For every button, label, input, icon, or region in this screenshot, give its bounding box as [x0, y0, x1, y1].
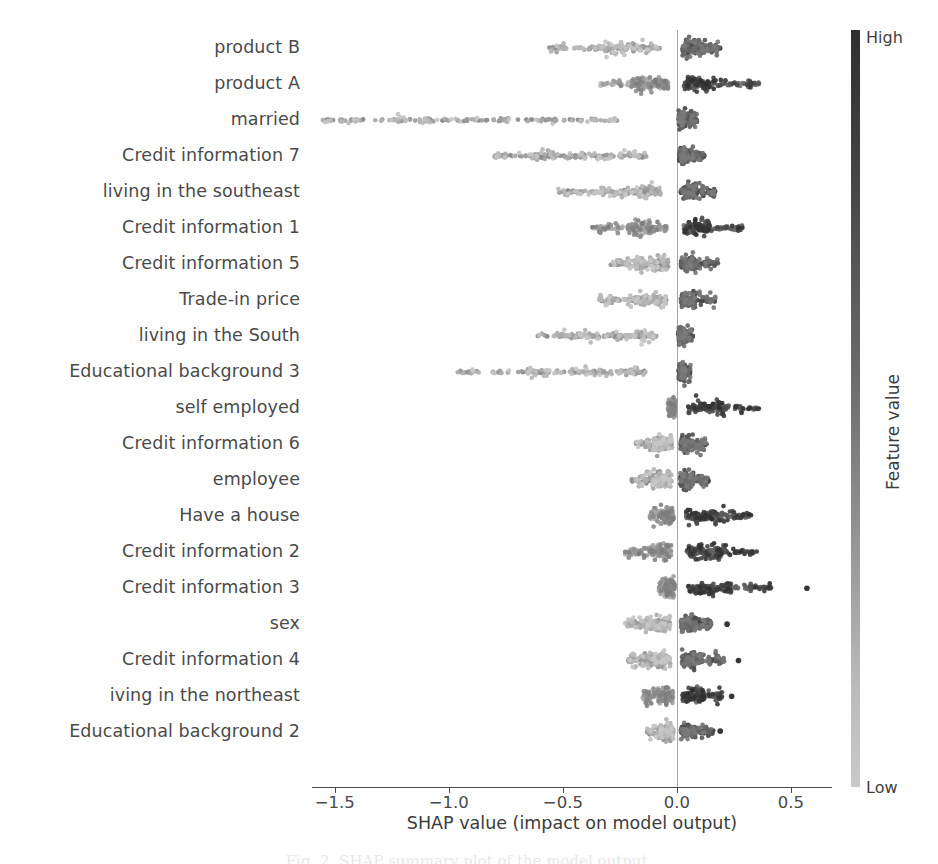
beeswarm-row	[312, 570, 832, 606]
x-axis: −1.5−1.0−0.50.00.5	[312, 787, 832, 789]
y-axis-label: Educational background 3	[0, 363, 300, 381]
y-axis-label: Credit information 6	[0, 435, 300, 453]
beeswarm-points	[312, 354, 832, 390]
y-axis-label: Credit information 7	[0, 147, 300, 165]
beeswarm-points	[312, 102, 832, 138]
beeswarm-points	[312, 30, 832, 66]
beeswarm-row	[312, 66, 832, 102]
y-axis-label: married	[0, 111, 300, 129]
beeswarm-points	[312, 534, 832, 570]
x-axis-tick-label: −1.5	[315, 795, 355, 812]
y-axis-label: employee	[0, 471, 300, 489]
beeswarm-points	[312, 66, 832, 102]
beeswarm-points	[312, 714, 832, 750]
y-axis-labels: product Bproduct AmarriedCredit informat…	[0, 0, 300, 790]
beeswarm-points	[312, 282, 832, 318]
plot-area	[312, 30, 832, 787]
beeswarm-points	[312, 642, 832, 678]
beeswarm-row	[312, 246, 832, 282]
y-axis-label: Educational background 2	[0, 723, 300, 741]
beeswarm-points	[312, 426, 832, 462]
beeswarm-row	[312, 498, 832, 534]
beeswarm-points	[312, 462, 832, 498]
x-axis-spine	[312, 787, 832, 788]
beeswarm-points	[312, 498, 832, 534]
x-axis-tick-label: −1.0	[429, 795, 469, 812]
beeswarm-row	[312, 174, 832, 210]
y-axis-label: Credit information 5	[0, 255, 300, 273]
beeswarm-points	[312, 138, 832, 174]
y-axis-label: self employed	[0, 399, 300, 417]
beeswarm-points	[312, 606, 832, 642]
beeswarm-points	[312, 570, 832, 606]
beeswarm-points	[312, 210, 832, 246]
colorbar-high-label: High	[866, 30, 903, 46]
beeswarm-row	[312, 534, 832, 570]
beeswarm-points	[312, 678, 832, 714]
beeswarm-row	[312, 678, 832, 714]
beeswarm-row	[312, 642, 832, 678]
y-axis-label: Credit information 1	[0, 219, 300, 237]
x-axis-tick-label: 0.0	[664, 795, 690, 812]
beeswarm-row	[312, 282, 832, 318]
y-axis-label: Credit information 3	[0, 579, 300, 597]
beeswarm-row	[312, 714, 832, 750]
beeswarm-row	[312, 30, 832, 66]
colorbar-gradient	[851, 30, 860, 787]
beeswarm-points	[312, 246, 832, 282]
y-axis-label: product B	[0, 39, 300, 57]
beeswarm-row	[312, 210, 832, 246]
y-axis-label: living in the southeast	[0, 183, 300, 201]
beeswarm-row	[312, 426, 832, 462]
y-axis-label: Credit information 4	[0, 651, 300, 669]
y-axis-label: iving in the northeast	[0, 687, 300, 705]
figure-caption: Fig. 2. SHAP summary plot of the model o…	[0, 852, 938, 864]
beeswarm-row	[312, 606, 832, 642]
colorbar-low-label: Low	[866, 780, 898, 796]
beeswarm-row	[312, 102, 832, 138]
y-axis-label: Trade-in price	[0, 291, 300, 309]
shap-summary-figure: product Bproduct AmarriedCredit informat…	[0, 0, 938, 864]
x-axis-title: SHAP value (impact on model output)	[312, 813, 832, 833]
beeswarm-row	[312, 462, 832, 498]
y-axis-label: living in the South	[0, 327, 300, 345]
beeswarm-row	[312, 138, 832, 174]
y-axis-label: product A	[0, 75, 300, 93]
x-axis-tick-label: 0.5	[778, 795, 804, 812]
y-axis-label: Credit information 2	[0, 543, 300, 561]
beeswarm-row	[312, 390, 832, 426]
beeswarm-points	[312, 174, 832, 210]
beeswarm-points	[312, 318, 832, 354]
beeswarm-row	[312, 318, 832, 354]
beeswarm-points	[312, 390, 832, 426]
beeswarm-row	[312, 354, 832, 390]
y-axis-label: sex	[0, 615, 300, 633]
x-axis-tick-label: −0.5	[543, 795, 583, 812]
colorbar-title: Feature value	[883, 374, 903, 490]
y-axis-label: Have a house	[0, 507, 300, 525]
